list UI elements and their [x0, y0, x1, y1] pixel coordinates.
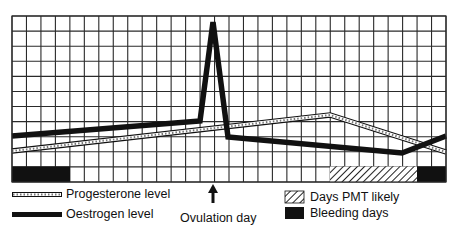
pmt-days-band [330, 167, 417, 183]
oestrogen-legend-swatch [12, 212, 62, 217]
bleeding-legend-swatch [285, 207, 304, 219]
ovulation-day-label: Ovulation day [180, 211, 256, 225]
bleeding-days-end-band [417, 167, 446, 183]
ovulation-arrow-icon [208, 184, 218, 203]
bleeding-legend-label: Bleeding days [310, 206, 389, 220]
oestrogen-legend-label: Oestrogen level [66, 207, 154, 221]
progesterone-legend-label: Progesterone level [66, 187, 170, 201]
pmt-legend-swatch [285, 191, 304, 203]
bleeding-days-start-band [12, 167, 70, 183]
chart-grid [12, 16, 446, 182]
progesterone-legend-swatch [12, 192, 62, 197]
pmt-legend-label: Days PMT likely [310, 190, 399, 204]
